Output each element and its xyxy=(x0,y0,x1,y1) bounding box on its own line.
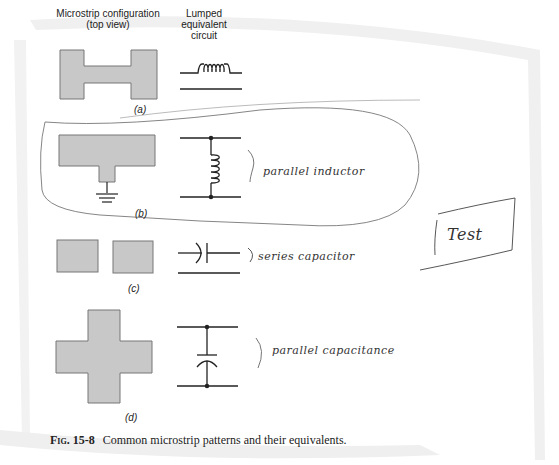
microstrip-h-shape xyxy=(60,50,157,99)
annotation-parallel-inductor: parallel inductor xyxy=(263,165,365,178)
figure-number: Fig. 15-8 xyxy=(50,433,95,447)
panel-label-d: (d) xyxy=(125,412,137,423)
ground-icon xyxy=(96,182,118,202)
panel-label-a: (a) xyxy=(134,104,146,115)
brace-c xyxy=(248,248,253,262)
caption-text: Common microstrip patterns and their equ… xyxy=(103,433,347,447)
series-inductor-icon xyxy=(180,64,242,89)
microstrip-gap-squares xyxy=(57,240,153,273)
parallel-capacitor-icon xyxy=(177,325,238,387)
brace-b xyxy=(248,150,254,182)
page-shadow-left xyxy=(14,40,30,440)
figure-caption: Fig. 15-8Common microstrip patterns and … xyxy=(50,433,347,448)
panel-label-c: (c) xyxy=(128,283,140,294)
brace-d xyxy=(256,338,262,368)
header-lumped-line2: circuit xyxy=(162,30,246,41)
header-lumped-line1: Lumped equivalent xyxy=(162,8,246,30)
microstrip-t-shape xyxy=(59,135,155,182)
header-microstrip: Microstrip configuration (top view) xyxy=(56,8,160,30)
header-microstrip-line2: (top view) xyxy=(56,19,160,30)
annotation-series-capacitor: series capacitor xyxy=(258,250,355,263)
panel-label-b: (b) xyxy=(135,208,147,219)
annotation-parallel-capacitance: parallel capacitance xyxy=(272,344,395,357)
scanned-page: Microstrip configuration (top view) Lump… xyxy=(0,0,559,465)
annotation-test: Test xyxy=(447,225,483,244)
header-lumped: Lumped equivalent circuit xyxy=(162,8,246,41)
header-microstrip-line1: Microstrip configuration xyxy=(56,8,160,19)
parallel-inductor-icon xyxy=(180,136,241,198)
microstrip-cross-shape xyxy=(56,310,152,403)
series-capacitor-icon xyxy=(178,243,240,273)
